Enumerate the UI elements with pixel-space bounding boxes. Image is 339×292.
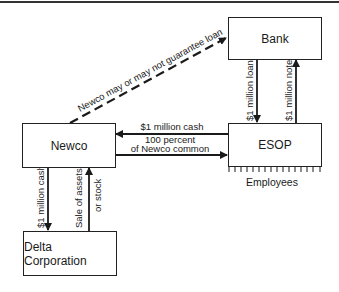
delta-label: Delta Corporation xyxy=(24,240,116,268)
esop-node: ESOP xyxy=(228,123,322,167)
bank-label: Bank xyxy=(261,32,288,46)
loan-label: $1 million loan xyxy=(244,60,255,121)
delta-corporation-node: Delta Corporation xyxy=(23,231,117,276)
common-label-line2: of Newco common xyxy=(131,143,210,154)
newco-node: Newco xyxy=(22,123,116,168)
guarantee-label: Newco may or may not guarantee loan xyxy=(76,26,225,114)
note-label: $1 million note xyxy=(283,60,294,121)
guarantee-arrow xyxy=(70,38,226,123)
newco-label: Newco xyxy=(51,139,88,153)
esop-cash-label: $1 million cash xyxy=(141,121,204,132)
bank-node: Bank xyxy=(228,17,322,60)
esop-label: ESOP xyxy=(258,138,291,152)
employees-label: Employees xyxy=(246,176,298,188)
newco-cash-label: $1 million cash xyxy=(35,165,46,228)
sale-label-line1: Sale of assets xyxy=(73,168,84,228)
sale-label-line2: or stock xyxy=(92,178,103,212)
